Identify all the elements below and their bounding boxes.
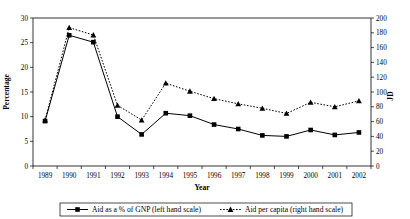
y-axis-left-tick-label: 10 — [21, 113, 29, 121]
x-axis-tick-label: 1999 — [279, 172, 294, 180]
series-line-1 — [45, 35, 359, 136]
series-2-point-1993 — [139, 117, 145, 122]
series-1-point-1991 — [91, 40, 96, 45]
y-axis-right-tick-label: 200 — [376, 15, 387, 23]
y-axis-left-tick-label: 20 — [21, 64, 29, 72]
series-2-point-1990 — [66, 25, 72, 30]
x-axis-title: Year — [194, 183, 210, 192]
y-axis-right-tick-label: 180 — [376, 29, 387, 37]
x-axis-tick-label: 1991 — [86, 172, 101, 180]
x-axis-tick-label: 1995 — [183, 172, 198, 180]
x-axis-tick-label: 1992 — [110, 172, 125, 180]
legend-label-1[interactable]: Aid as a % of GNP (left hand scale) — [92, 205, 201, 214]
chart-container: 0510152025300204060801001201401601802001… — [0, 0, 410, 219]
series-1-point-2000 — [308, 128, 313, 133]
y-axis-right-tick-label: 80 — [376, 103, 384, 111]
y-axis-right-title: JD — [386, 91, 395, 101]
y-axis-left-title: Percentage — [2, 74, 11, 110]
legend-swatch-marker-square — [75, 207, 80, 212]
y-axis-right-tick-label: 120 — [376, 74, 387, 82]
y-axis-left-tick-label: 25 — [21, 39, 29, 47]
y-axis-right-tick-label: 60 — [376, 118, 384, 126]
series-2-point-2000 — [308, 99, 314, 104]
x-axis-tick-label: 1997 — [231, 172, 246, 180]
x-axis-tick-label: 1990 — [62, 172, 77, 180]
y-axis-left-tick-label: 5 — [24, 138, 28, 146]
series-1-point-2001 — [332, 133, 337, 138]
y-axis-right-tick-label: 160 — [376, 44, 387, 52]
series-2-point-1999 — [284, 111, 290, 116]
x-axis-tick-label: 1996 — [207, 172, 222, 180]
series-1-point-1996 — [212, 122, 217, 127]
y-axis-right-tick-label: 140 — [376, 59, 387, 67]
series-1-point-1994 — [163, 111, 168, 116]
series-1-point-1999 — [284, 134, 289, 139]
x-axis-tick-label: 1989 — [38, 172, 53, 180]
series-1-point-1993 — [139, 132, 144, 137]
y-axis-right-tick-label: 0 — [376, 163, 380, 171]
series-2-point-1992 — [115, 102, 121, 107]
series-2-point-1995 — [187, 88, 193, 93]
series-2-point-1994 — [163, 80, 169, 85]
y-axis-left-tick-label: 15 — [21, 89, 29, 97]
x-axis-tick-label: 2002 — [352, 172, 367, 180]
y-axis-right-tick-label: 20 — [376, 148, 384, 156]
series-1-point-2002 — [357, 130, 362, 135]
series-2-point-1996 — [211, 96, 217, 101]
series-1-point-1998 — [260, 133, 265, 138]
y-axis-left-tick-label: 30 — [21, 15, 29, 23]
x-axis-tick-label: 2000 — [303, 172, 318, 180]
series-1-point-1995 — [188, 113, 193, 118]
series-1-point-1997 — [236, 127, 241, 132]
x-axis-tick-label: 1998 — [255, 172, 270, 180]
series-2-point-2002 — [356, 98, 362, 103]
y-axis-right-tick-label: 40 — [376, 133, 384, 141]
series-1-point-1992 — [115, 114, 120, 119]
x-axis-tick-label: 1994 — [159, 172, 174, 180]
aid-trend-line-chart: 0510152025300204060801001201401601802001… — [0, 0, 410, 219]
x-axis-tick-label: 1993 — [134, 172, 149, 180]
series-2-point-1997 — [235, 101, 241, 106]
legend-label-2[interactable]: Aid per capita (right hand scale) — [245, 205, 344, 214]
x-axis-tick-label: 2001 — [328, 172, 343, 180]
y-axis-left-tick-label: 0 — [24, 163, 28, 171]
legend-swatch-marker-triangle — [228, 207, 234, 212]
